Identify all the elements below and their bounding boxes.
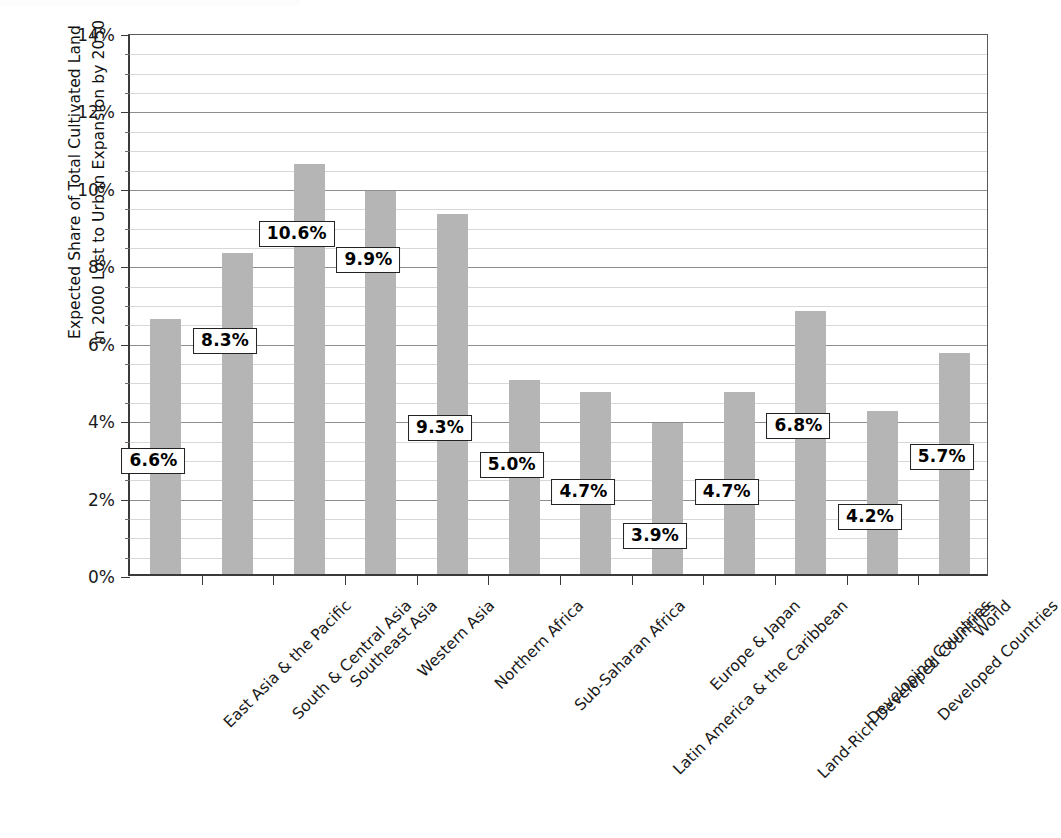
tick-mark-minor	[125, 519, 130, 520]
data-label: 5.0%	[480, 452, 544, 478]
gridline-minor	[130, 461, 987, 462]
gridline-minor	[130, 538, 987, 539]
x-axis-tick	[632, 574, 633, 585]
gridline-minor	[130, 248, 987, 249]
bar[interactable]	[867, 411, 898, 574]
data-label: 3.9%	[623, 523, 687, 549]
tick-mark-minor	[125, 54, 130, 55]
tick-mark-minor	[125, 74, 130, 75]
tick-mark-major	[121, 35, 130, 36]
gridline-minor	[130, 442, 987, 443]
tick-mark-major	[121, 500, 130, 501]
plot-area: 0%2%4%6%8%10%12%14% 6.6%8.3%10.6%9.9%9.3…	[128, 34, 988, 576]
tick-mark-minor	[125, 93, 130, 94]
gridline-minor	[130, 558, 987, 559]
y-axis-tick-label: 12%	[45, 100, 115, 124]
y-axis-tick-label: 4%	[45, 410, 115, 434]
data-label: 4.7%	[695, 479, 759, 505]
x-axis-label: Latin America & the Caribbean	[669, 597, 851, 779]
x-axis-tick	[417, 574, 418, 585]
gridline-minor	[130, 74, 987, 75]
x-axis-tick	[560, 574, 561, 585]
gridline-minor	[130, 383, 987, 384]
tick-mark-major	[121, 190, 130, 191]
x-axis-tick	[202, 574, 203, 585]
gridline-minor	[130, 54, 987, 55]
data-label: 9.9%	[336, 247, 400, 273]
tick-mark-major	[121, 345, 130, 346]
data-label: 6.6%	[121, 448, 185, 474]
bar[interactable]	[795, 311, 826, 574]
data-label: 9.3%	[408, 415, 472, 441]
tick-mark-minor	[125, 151, 130, 152]
tick-mark-minor	[125, 325, 130, 326]
data-label: 6.8%	[766, 413, 830, 439]
gridline-minor	[130, 403, 987, 404]
x-axis-tick	[703, 574, 704, 585]
tick-mark-minor	[125, 403, 130, 404]
gridline-minor	[130, 93, 987, 94]
x-axis-tick	[918, 574, 919, 585]
gridline-minor	[130, 287, 987, 288]
tick-mark-major	[121, 267, 130, 268]
x-axis-tick	[775, 574, 776, 585]
tick-mark-minor	[125, 248, 130, 249]
bar[interactable]	[150, 319, 181, 575]
data-label: 5.7%	[910, 444, 974, 470]
x-axis-tick	[488, 574, 489, 585]
tick-mark-major	[121, 577, 130, 578]
gridline-minor	[130, 209, 987, 210]
data-label: 4.2%	[838, 504, 902, 530]
gridline-minor	[130, 325, 987, 326]
tick-mark-minor	[125, 383, 130, 384]
bar[interactable]	[222, 253, 253, 574]
tick-mark-minor	[125, 209, 130, 210]
gridline-major	[130, 422, 987, 423]
tick-mark-major	[121, 422, 130, 423]
tick-mark-minor	[125, 229, 130, 230]
gridline-major	[130, 345, 987, 346]
y-axis-tick-label: 2%	[45, 488, 115, 512]
tick-mark-minor	[125, 306, 130, 307]
tick-mark-minor	[125, 538, 130, 539]
gridline-minor	[130, 132, 987, 133]
gridline-major	[130, 267, 987, 268]
tick-mark-minor	[125, 364, 130, 365]
y-axis-tick-label: 10%	[45, 178, 115, 202]
gridline-minor	[130, 306, 987, 307]
y-axis-tick-label: 14%	[45, 23, 115, 47]
tick-mark-minor	[125, 480, 130, 481]
tick-mark-minor	[125, 558, 130, 559]
gridline-major	[130, 190, 987, 191]
data-label: 4.7%	[551, 479, 615, 505]
scan-artifact	[0, 0, 300, 6]
bar[interactable]	[437, 214, 468, 574]
data-label: 8.3%	[193, 328, 257, 354]
tick-mark-minor	[125, 132, 130, 133]
tick-mark-minor	[125, 171, 130, 172]
x-axis-tick	[847, 574, 848, 585]
y-axis-tick-label: 8%	[45, 255, 115, 279]
y-axis-tick-label: 6%	[45, 333, 115, 357]
gridline-minor	[130, 364, 987, 365]
x-axis-label: Sub-Saharan Africa	[571, 597, 689, 715]
x-axis-label: South & Central Asia	[288, 597, 414, 723]
tick-mark-minor	[125, 442, 130, 443]
gridline-major	[130, 112, 987, 113]
tick-mark-minor	[125, 287, 130, 288]
tick-mark-major	[121, 112, 130, 113]
gridline-minor	[130, 151, 987, 152]
x-axis-tick	[273, 574, 274, 585]
data-label: 10.6%	[259, 221, 335, 247]
y-axis-tick-label: 0%	[45, 565, 115, 589]
x-axis-tick	[345, 574, 346, 585]
bar[interactable]	[652, 423, 683, 574]
gridline-minor	[130, 171, 987, 172]
x-axis-label: Developing Countries	[863, 597, 994, 728]
x-axis-label: Northern Africa	[491, 597, 587, 693]
